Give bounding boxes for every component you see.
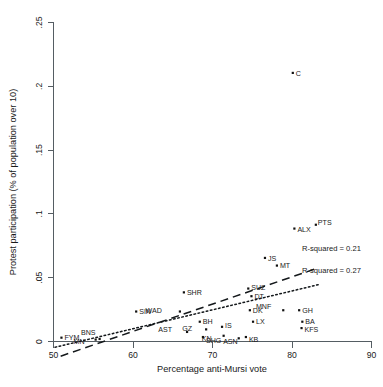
y-tick-label: .15 [34, 144, 44, 156]
data-point-label: MNF [256, 303, 272, 311]
data-point-marker [60, 337, 62, 339]
data-point-marker [223, 335, 225, 337]
data-point: ASN [223, 337, 240, 346]
data-point-label: LX [256, 318, 265, 326]
y-tick-label: .1 [34, 210, 44, 217]
data-point-label: KB [249, 336, 259, 344]
data-point-label: BNS [81, 329, 96, 337]
data-point-marker [264, 257, 266, 259]
scatter-plot-figure: 0.05.1.15.2.25 5060708090 R-squared = 0.… [0, 0, 383, 387]
data-point-label: PTS [318, 219, 332, 227]
data-point-label: MT [280, 262, 291, 270]
data-point-marker [183, 291, 185, 293]
data-point-label: DT [254, 293, 264, 301]
data-point-marker [99, 338, 101, 340]
data-point-label: IS [225, 322, 232, 330]
x-tick-label: 50 [49, 350, 59, 360]
protest-participation-scatter-chart: 0.05.1.15.2.25 5060708090 R-squared = 0.… [0, 0, 383, 387]
data-point-marker [301, 321, 303, 323]
x-tick-label: 70 [208, 350, 218, 360]
data-point: PTS [315, 219, 332, 227]
data-point-label: AST [158, 326, 172, 334]
data-point-label: ASN [223, 338, 238, 346]
r-squared-label-0.21: R-squared = 0.21 [302, 244, 361, 253]
data-point-marker [293, 227, 295, 229]
data-point-label: JS [268, 255, 277, 263]
y-tick-label: .25 [34, 16, 44, 28]
y-tick-label: .05 [34, 272, 44, 284]
x-tick-label: 80 [287, 350, 297, 360]
r-squared-label-0.27: R-squared = 0.27 [302, 266, 361, 275]
data-point-marker [276, 264, 278, 266]
data-point-label: MN [74, 338, 85, 346]
data-point-marker [245, 336, 247, 338]
data-point-label: ALX [297, 226, 311, 234]
data-point-marker [179, 310, 181, 312]
data-point-marker [315, 224, 317, 226]
data-point-label: SUZ [251, 284, 266, 292]
data-point-marker [252, 321, 254, 323]
data-point-label: SHR [187, 289, 202, 297]
data-point-marker [292, 72, 294, 74]
data-point-marker [199, 321, 201, 323]
data-point-label: GH [302, 307, 313, 315]
data-point-marker [300, 327, 302, 329]
data-point-marker [298, 309, 300, 311]
data-point-marker [238, 337, 240, 339]
data-point-marker [135, 310, 137, 312]
x-axis-title: Percentage anti-Mursi vote [157, 364, 267, 374]
data-point-label: KFS [305, 326, 319, 334]
data-point-marker [221, 326, 223, 328]
data-point-marker [250, 295, 252, 297]
y-tick-label: 0 [34, 339, 44, 344]
data-point-marker [95, 338, 97, 340]
y-axis-title: Protest participation (% of population o… [8, 89, 18, 275]
data-point-label: WAD [146, 307, 162, 315]
data-point-marker [205, 328, 207, 330]
data-point-label: KN [202, 335, 212, 343]
data-point-label: BH [203, 318, 213, 326]
data-point-marker [247, 287, 249, 289]
x-tick-label: 60 [128, 350, 138, 360]
data-point-label: GZ [182, 325, 193, 333]
y-tick-label: .2 [34, 82, 44, 89]
data-point-marker [282, 309, 284, 311]
data-point-label: C [296, 70, 301, 78]
x-tick-label: 90 [367, 350, 377, 360]
data-point-marker [249, 309, 251, 311]
